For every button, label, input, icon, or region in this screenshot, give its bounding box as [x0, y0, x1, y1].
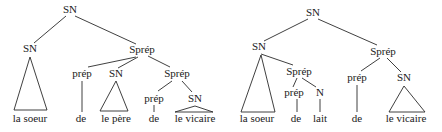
- right-tree: SN SN Sprép prép N Sprép prép SN la soeu…: [240, 6, 427, 124]
- node-sn: SN: [23, 42, 37, 54]
- edge-root-sprep: [75, 16, 136, 44]
- leaf-de: de: [291, 112, 302, 124]
- leaf-de: de: [76, 112, 87, 124]
- edge-root-sn: [264, 19, 308, 41]
- node-sn: SN: [252, 40, 266, 52]
- node-sn-root: SN: [63, 3, 77, 15]
- left-tree: SN SN Sprép prép SN Sprép prép SN la soe…: [13, 3, 216, 124]
- node-sn-root: SN: [306, 6, 320, 18]
- edge-sprep2-sn: [182, 81, 192, 92]
- edge-sn-sprep: [261, 54, 293, 65]
- node-prep: prép: [347, 71, 367, 83]
- edge-sprep2-prep: [158, 81, 172, 91]
- leaf-le-vicaire: le vicaire: [386, 112, 427, 124]
- node-sprep: Sprép: [286, 65, 312, 77]
- edge-sprep2-sn: [387, 58, 401, 72]
- node-prep: prép: [144, 92, 164, 104]
- node-prep: prép: [284, 86, 304, 98]
- triangle-la-soeur: [241, 55, 275, 112]
- edge-sprep2-prep: [361, 58, 380, 71]
- node-n: N: [316, 86, 324, 98]
- node-sprep: Sprép: [370, 45, 396, 57]
- node-sn: SN: [188, 92, 202, 104]
- triangle-le-vicaire: [389, 86, 425, 112]
- node-sprep: Sprép: [164, 67, 190, 79]
- leaf-le-pere: le père: [101, 112, 131, 124]
- leaf-lait: lait: [313, 112, 327, 124]
- leaf-la-soeur: la soeur: [240, 112, 275, 124]
- leaf-de: de: [149, 112, 160, 124]
- edge-sprep-n: [302, 78, 316, 87]
- leaf-la-soeur: la soeur: [13, 112, 48, 124]
- triangle-la-soeur: [14, 57, 47, 110]
- leaf-de: de: [352, 112, 363, 124]
- leaf-le-vicaire: le vicaire: [175, 112, 216, 124]
- edge-sprep-sprep: [148, 56, 170, 67]
- node-sn: SN: [109, 67, 123, 79]
- node-prep: prép: [72, 67, 92, 79]
- syntax-tree-diagram: SN SN Sprép prép SN Sprép prép SN la soe…: [0, 0, 442, 132]
- edge-root-sprep: [318, 19, 377, 45]
- node-sn: SN: [397, 71, 411, 83]
- triangle-le-pere: [100, 81, 128, 111]
- edge-root-sn: [34, 16, 66, 43]
- node-sprep: Sprép: [129, 43, 155, 55]
